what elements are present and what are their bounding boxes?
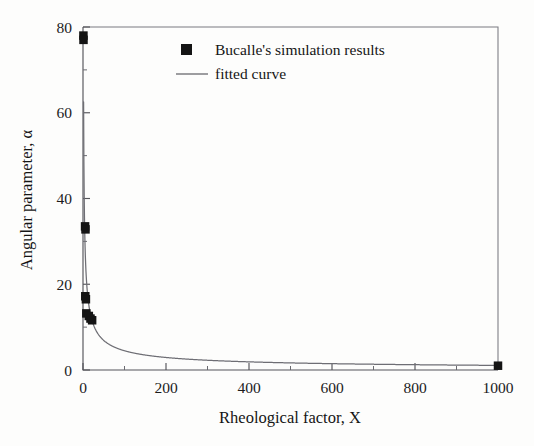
x-axis-title: Rheological factor, X <box>219 408 361 427</box>
x-tick-labels: 02004006008001000 <box>79 379 514 396</box>
y-tick-label: 0 <box>64 362 72 379</box>
y-tick-labels: 020406080 <box>57 19 73 379</box>
x-tick-label: 800 <box>403 379 427 396</box>
data-point-marker <box>79 36 88 45</box>
plot-frame <box>83 27 498 370</box>
x-tick-label: 200 <box>154 379 178 396</box>
y-tick-label: 60 <box>57 104 73 121</box>
x-axis-ticks <box>83 363 498 370</box>
y-tick-label: 20 <box>57 276 73 293</box>
legend-label-simulation: Bucalle's simulation results <box>215 41 385 58</box>
y-axis-title: Angular parameter, α <box>17 129 36 270</box>
legend-square-marker-icon <box>181 44 192 55</box>
y-tick-label: 40 <box>57 190 73 207</box>
x-tick-label: 0 <box>79 379 87 396</box>
chart-legend: Bucalle's simulation results fitted curv… <box>176 41 385 82</box>
x-tick-label: 400 <box>237 379 261 396</box>
x-tick-label: 600 <box>320 379 344 396</box>
chart-canvas: 020406080 02004006008001000 Bucalle's si… <box>0 0 534 446</box>
fitted-curve-line <box>84 102 498 365</box>
legend-label-fitted-curve: fitted curve <box>215 65 286 82</box>
data-point-marker <box>81 225 90 234</box>
data-point-marker <box>494 361 503 370</box>
y-tick-label: 80 <box>57 19 73 36</box>
x-tick-label: 1000 <box>483 379 514 396</box>
data-point-markers <box>79 31 502 370</box>
data-point-marker <box>82 295 91 304</box>
data-point-marker <box>88 316 97 325</box>
chart-figure: 020406080 02004006008001000 Bucalle's si… <box>0 0 534 446</box>
